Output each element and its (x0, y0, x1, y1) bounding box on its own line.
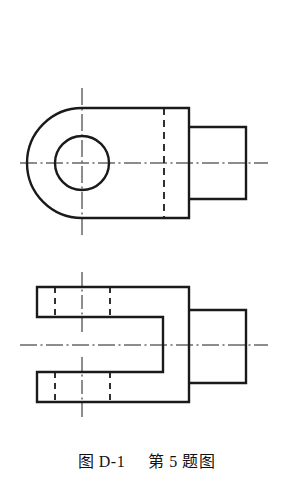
figure-container: 图 D-1 第 5 题图 (0, 0, 293, 503)
engineering-drawing (0, 0, 293, 503)
figure-caption-title: 第 5 题图 (148, 448, 215, 472)
figure-caption: 图 D-1 第 5 题图 (0, 448, 293, 472)
figure-caption-label: 图 D-1 (78, 448, 125, 472)
drawing-background (0, 0, 293, 503)
